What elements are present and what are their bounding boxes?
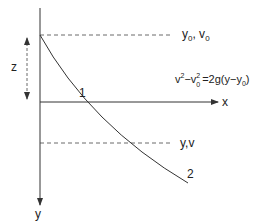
y-axis-label: y (35, 207, 41, 221)
curve-marker-2: 2 (187, 167, 194, 181)
energy-equation: v2−v20=2g(y−y0) (175, 72, 249, 88)
x-axis-label: x (222, 95, 228, 109)
z-distance-label: z (11, 60, 17, 74)
trajectory-curve (40, 35, 188, 183)
curve-marker-1: 1 (79, 86, 86, 100)
initial-level-label: y0, v0 (182, 27, 210, 43)
free-fall-diagram: y x y0, v0 y,v z 1 2 v2−v20=2g(y−y0) (0, 0, 270, 224)
current-level-label: y,v (180, 136, 194, 150)
